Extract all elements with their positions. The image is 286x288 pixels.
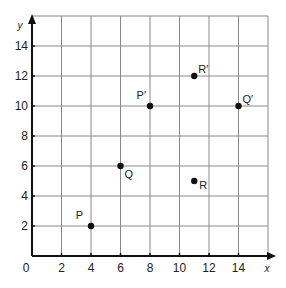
point-marker-icon	[235, 103, 241, 109]
point-r-prime: R′	[191, 63, 208, 79]
y-axis-label: y	[17, 20, 24, 31]
point-r: R	[191, 178, 207, 191]
y-tick-label: 4	[21, 189, 28, 203]
origin-label: 0	[23, 261, 30, 275]
point-label: R	[199, 179, 207, 191]
x-tick-label: 14	[232, 261, 246, 275]
x-tick-label: 10	[173, 261, 187, 275]
x-axis-label: x	[264, 263, 271, 274]
x-tick-label: 12	[202, 261, 216, 275]
point-marker-icon	[191, 73, 197, 79]
x-tick-label: 8	[147, 261, 154, 275]
y-tick-label: 10	[15, 99, 29, 113]
x-axis-arrow-icon	[267, 252, 276, 260]
coordinate-grid-diagram: 24681012142468101214 0 x y PQRP′Q′R′	[0, 0, 286, 288]
x-tick-label: 2	[58, 261, 65, 275]
point-label: P′	[137, 89, 146, 101]
y-tick-label: 6	[21, 159, 28, 173]
y-tick-label: 12	[15, 69, 29, 83]
point-label: R′	[198, 63, 208, 75]
point-label: Q′	[243, 93, 254, 105]
tick-labels: 24681012142468101214	[15, 39, 246, 275]
point-q: Q	[117, 163, 133, 180]
point-label: Q	[125, 168, 134, 180]
y-tick-label: 2	[21, 219, 28, 233]
x-tick-label: 4	[88, 261, 95, 275]
y-tick-label: 14	[15, 39, 29, 53]
x-tick-label: 6	[117, 261, 124, 275]
point-marker-icon	[88, 223, 94, 229]
point-label: P	[76, 209, 83, 221]
grid-lines	[32, 16, 268, 256]
plotted-points: PQRP′Q′R′	[76, 63, 253, 229]
y-tick-label: 8	[21, 129, 28, 143]
point-marker-icon	[117, 163, 123, 169]
point-q-prime: Q′	[235, 93, 253, 109]
point-marker-icon	[147, 103, 153, 109]
point-marker-icon	[191, 178, 197, 184]
